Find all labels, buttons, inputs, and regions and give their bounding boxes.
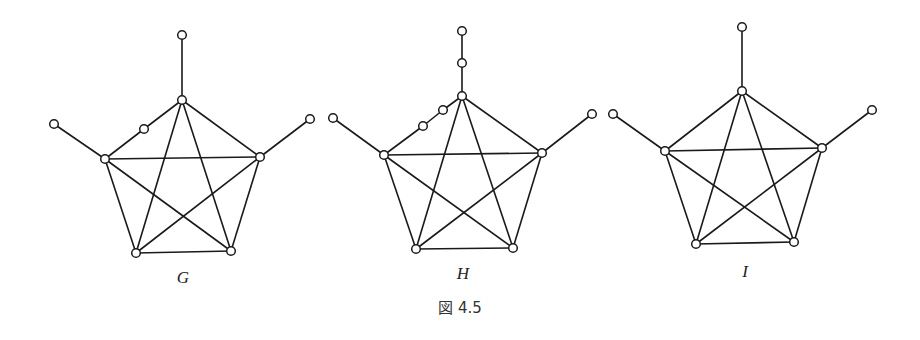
graph-edge <box>613 114 665 151</box>
graph-vertex <box>380 151 389 160</box>
graph-label-g: G <box>177 268 189 287</box>
graph-vertex <box>588 110 597 119</box>
graph-edge <box>542 114 592 153</box>
graph-edge <box>136 251 231 253</box>
graph-edge <box>105 159 136 253</box>
graph-vertex <box>329 114 338 123</box>
graph-vertex <box>692 240 701 249</box>
graph-edge <box>696 242 794 244</box>
graph-vertex <box>538 149 547 158</box>
graph-i <box>609 23 877 249</box>
graph-vertex <box>661 147 670 156</box>
graph-g <box>50 31 315 258</box>
graph-vertex <box>178 96 187 105</box>
graph-edge <box>54 124 105 159</box>
graph-edge <box>182 100 260 157</box>
graph-edge <box>665 151 794 242</box>
graph-edge <box>794 148 822 242</box>
graph-vertex <box>609 110 618 119</box>
graph-edge <box>696 91 742 244</box>
graph-vertex <box>306 115 315 124</box>
graph-edge <box>462 96 513 248</box>
graph-vertex <box>738 23 747 32</box>
graph-edge <box>416 248 513 249</box>
graph-edge <box>384 155 416 249</box>
graph-edge <box>462 96 542 153</box>
graph-edge <box>136 100 182 253</box>
graph-edge <box>513 153 542 248</box>
graph-vertex <box>818 144 827 153</box>
graph-edge <box>384 126 423 155</box>
graph-label-i: I <box>741 262 749 281</box>
graph-edge <box>665 151 696 244</box>
graph-vertex <box>458 27 467 36</box>
graph-edge <box>105 157 260 159</box>
graph-vertex <box>509 244 518 253</box>
graph-vertex <box>419 122 428 131</box>
graph-vertex <box>227 247 236 256</box>
graph-edge <box>136 157 260 253</box>
graph-edge <box>182 100 231 251</box>
graph-edge <box>742 91 822 148</box>
graph-edge <box>822 110 872 148</box>
graph-edge <box>144 100 182 129</box>
graph-h <box>329 27 597 254</box>
graph-edge <box>696 148 822 244</box>
graph-vertex <box>738 87 747 96</box>
graph-vertex <box>439 106 448 115</box>
graph-vertex <box>412 245 421 254</box>
graph-figure: G H I 図 4.5 <box>0 0 920 340</box>
graph-edge <box>416 153 542 249</box>
graph-vertex <box>790 238 799 247</box>
graph-vertex <box>140 125 149 134</box>
graph-vertex <box>50 120 59 129</box>
graph-edge <box>105 129 144 159</box>
graph-vertex <box>458 92 467 101</box>
graph-vertex <box>178 31 187 40</box>
graph-vertex <box>458 59 467 68</box>
graph-edge <box>384 153 542 155</box>
graph-vertex <box>868 106 877 115</box>
graph-edge <box>665 148 822 151</box>
graph-edge <box>742 91 794 242</box>
graph-edge <box>416 96 462 249</box>
figure-caption: 図 4.5 <box>438 299 482 317</box>
graph-edge <box>231 157 260 251</box>
graph-edge <box>333 118 384 155</box>
graph-edge <box>260 119 310 157</box>
graph-vertex <box>256 153 265 162</box>
graph-edge <box>105 159 231 251</box>
graph-edge <box>665 91 742 151</box>
graph-edge <box>384 155 513 248</box>
graph-label-h: H <box>456 264 471 283</box>
graph-vertex <box>101 155 110 164</box>
graph-vertex <box>132 249 141 258</box>
